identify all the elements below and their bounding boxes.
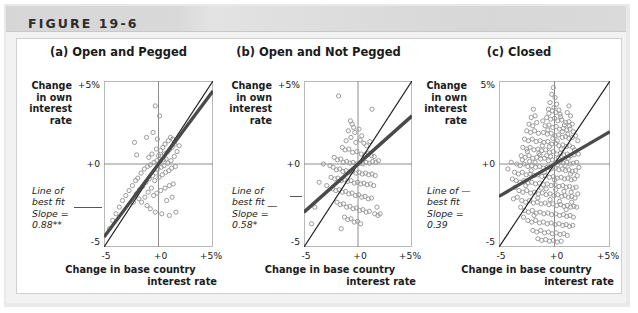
x-tick-1: -5 [294, 250, 318, 261]
data-point [536, 196, 540, 200]
panel-title-closed: (c) Closed [417, 45, 621, 59]
data-point [309, 222, 313, 226]
x-axis-title-line-1: Change in base country [65, 264, 195, 275]
y-tick-1: +5% [74, 79, 100, 90]
x-tick-2: +0 [149, 250, 173, 261]
panel-title-open-and-not-pegged: (b) Open and Not Pegged [220, 45, 417, 59]
data-point [534, 218, 538, 222]
y-axis-title: Changein owninterestrate [20, 80, 72, 126]
data-point [547, 111, 551, 115]
data-point [159, 149, 163, 153]
x-axis-title-line-2: interest rate [244, 276, 416, 288]
data-point [520, 158, 524, 162]
data-point [132, 140, 136, 144]
y-axis-title-line-1: Change [20, 80, 72, 92]
data-point [521, 215, 525, 219]
data-point [562, 189, 566, 193]
data-point [317, 180, 321, 184]
data-point [165, 198, 169, 202]
y-tick-2: +0 [74, 158, 100, 169]
best-fit-annotation-line-2: best fit [427, 196, 471, 207]
data-point [548, 198, 552, 202]
best-fit-annotation-line-4: 0.88** [32, 219, 69, 230]
data-point [565, 110, 569, 114]
data-point [147, 155, 151, 159]
data-point [153, 104, 157, 108]
data-point [117, 205, 121, 209]
data-point [170, 195, 174, 199]
data-point [175, 149, 179, 153]
plot-area-open-and-pegged [104, 81, 213, 247]
best-fit-annotation: Line ofbest fitSlope =0.88** [32, 185, 69, 231]
data-point [569, 190, 573, 194]
y-axis-title-line-4: rate [20, 115, 72, 127]
data-point [359, 222, 363, 226]
best-fit-annotation-line-2: best fit [32, 196, 69, 207]
data-point [173, 164, 177, 168]
x-tick-2: +0 [348, 250, 372, 261]
data-point [358, 138, 362, 142]
data-point [174, 210, 178, 214]
x-tick-3: +5% [596, 250, 620, 261]
data-point [154, 147, 158, 151]
data-point [167, 213, 171, 217]
data-point [340, 145, 344, 149]
best-fit-annotation-line-3: Slope = [427, 208, 471, 219]
data-point [546, 128, 550, 132]
data-point [365, 144, 369, 148]
best-fit-annotation-line-1: Line of [32, 185, 69, 196]
best-fit-annotation-line-4: 0.39 [427, 219, 471, 230]
data-point [536, 131, 540, 135]
data-point [159, 188, 163, 192]
data-point [506, 167, 510, 171]
data-point [511, 197, 515, 201]
data-point [354, 140, 358, 144]
data-point [530, 208, 534, 212]
data-point [114, 212, 118, 216]
best-fit-annotation-line-3: Slope = [32, 208, 69, 219]
data-point [148, 207, 152, 211]
y-axis-title-line-3: interest [220, 103, 272, 115]
data-point [130, 183, 134, 187]
scatter-svg [304, 81, 412, 247]
data-point [372, 154, 376, 158]
data-point [149, 186, 153, 190]
scatter-svg [499, 81, 610, 247]
x-axis-title: Change in base countryinterest rate [44, 264, 217, 288]
data-point [137, 197, 141, 201]
best-fit-annotation-line-4: 0.58* [232, 219, 277, 230]
best-fit-annotation-line-2: best fit __ [232, 196, 277, 207]
data-point [541, 119, 545, 123]
best-fit-annotation-line-1: Line of — [427, 185, 471, 196]
figure-label: FIGURE 19-6 [28, 16, 139, 31]
data-point [539, 228, 543, 232]
data-point [535, 120, 539, 124]
y-axis-title-line-2: in own [20, 92, 72, 104]
data-point [124, 193, 128, 197]
data-point [553, 96, 557, 100]
data-point [346, 129, 350, 133]
scatter-svg [104, 81, 213, 247]
data-point [120, 198, 124, 202]
data-point [525, 188, 529, 192]
data-point [160, 212, 164, 216]
data-point [353, 130, 357, 134]
data-point [576, 192, 580, 196]
panel-title-open-and-pegged: (a) Open and Pegged [17, 45, 220, 59]
x-axis-title: Change in base countryinterest rate [439, 264, 614, 288]
panel-closed: (c) ClosedChangein owninterestrate5%+0-5… [417, 39, 621, 293]
data-point [144, 135, 148, 139]
data-point [575, 174, 579, 178]
y-axis-title-line-2: in own [415, 92, 467, 104]
data-point [544, 187, 548, 191]
data-point [527, 154, 531, 158]
data-point [336, 94, 340, 98]
data-point [519, 205, 523, 209]
plot-area-closed [499, 81, 610, 247]
y-axis-title-line-2: in own [220, 92, 272, 104]
y-tick-3: -5 [74, 236, 100, 247]
x-axis-title-line-1: Change in base country [461, 264, 591, 275]
data-point [532, 129, 536, 133]
data-point [564, 208, 568, 212]
figure-content-card: (a) Open and PeggedChangein owninterestr… [16, 38, 622, 294]
